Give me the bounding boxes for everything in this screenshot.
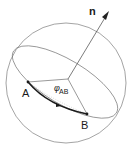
sphere-outline [6,23,126,143]
sphere-diagram: n A B φ AB [0,0,132,150]
radius-to-b [68,79,87,114]
label-n: n [89,5,96,17]
label-a: A [22,87,30,99]
point-b [86,113,89,116]
normal-arrowhead-icon [102,11,109,20]
radius-to-a [28,79,68,82]
label-angle-subscript: AB [59,88,69,95]
normal-vector-line [68,16,106,79]
label-b: B [81,119,88,131]
point-a [27,81,30,84]
great-circle-ellipse [2,32,128,132]
